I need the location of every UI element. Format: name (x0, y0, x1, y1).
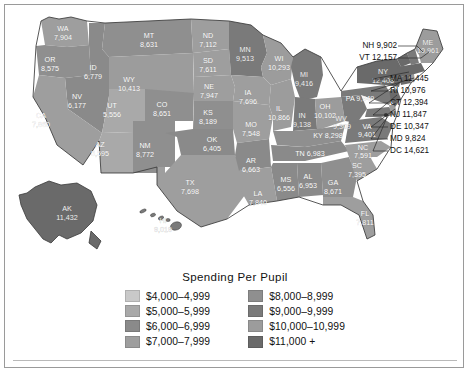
callout-DC: DC 14,621 (390, 146, 430, 155)
state-label-GA: GA (328, 178, 339, 187)
legend-swatch (125, 320, 140, 332)
legend-column-2: $8,000–8,999$9,000–9,999$10,000–10,999$1… (248, 290, 345, 348)
legend-item[interactable]: $5,000–5,999 (125, 305, 210, 317)
legend-item[interactable]: $11,000 + (248, 336, 345, 348)
map-legend: Spending Per Pupil $4,000–4,999$5,000–5,… (5, 267, 465, 368)
state-label-MT: MT (144, 31, 155, 40)
legend-label: $10,000–10,999 (269, 321, 345, 332)
callout-NH: NH 9,902 (362, 41, 397, 50)
state-value-CO: 8,651 (153, 109, 171, 118)
state-label-SD: SD (203, 56, 213, 65)
legend-title: Spending Per Pupil (5, 271, 465, 283)
legend-swatch (248, 320, 263, 332)
legend-item[interactable]: $10,000–10,999 (248, 320, 345, 332)
state-label-VAV: 9,401 (358, 130, 376, 139)
legend-swatch (125, 305, 140, 317)
state-label-MO: MO (245, 120, 257, 129)
state-label-NY: NY (378, 67, 388, 76)
state-value-WI: 10,293 (268, 63, 290, 72)
state-OK[interactable] (165, 129, 235, 155)
callouts-right: MA 11,445RI 10,976CT 12,394NJ 11,847DE 1… (390, 74, 430, 155)
state-label-CO: CO (157, 100, 168, 109)
state-value-KS: 8,189 (199, 117, 217, 126)
state-value-AL: 6,953 (299, 181, 317, 190)
state-label-OK: OK (207, 135, 218, 144)
state-value-WA: 7,904 (54, 33, 72, 42)
state-value-AZ: 5,595 (91, 149, 109, 158)
state-label-KY: KY 8,298 (313, 131, 342, 140)
legend-label: $9,000–9,999 (269, 306, 333, 317)
state-label-PA: PA 9,949 (346, 94, 375, 103)
state-value-OH: 10,102 (314, 111, 336, 120)
state-label-NCV: 7,591 (354, 151, 372, 160)
callout-DE: DE 10,347 (390, 122, 429, 131)
state-label-ND: ND (203, 31, 213, 40)
us-map-svg: WA7,904OR8,575ID6,779MT8,631WY10,413NV6,… (5, 5, 465, 267)
callout-CT: CT 12,394 (390, 98, 429, 107)
callout-MA: MA 11,445 (390, 74, 429, 83)
legend-label: $4,000–4,999 (146, 291, 210, 302)
state-label-NM: NM (139, 141, 150, 150)
state-label-MEV: 10,961 (417, 46, 439, 55)
state-value-OK: 6,405 (203, 144, 221, 153)
state-value-MS: 6,556 (277, 184, 295, 193)
legend-label: $11,000 + (269, 336, 315, 347)
state-label-WY: WY (123, 75, 135, 84)
state-label-HI: HI (159, 216, 166, 225)
state-value-ID: 6,779 (84, 72, 102, 81)
state-label-WVV: 9,309 (333, 122, 351, 131)
callout-RI: RI 10,976 (390, 86, 426, 95)
legend-label: $6,000–6,999 (146, 321, 210, 332)
state-label-FL: FL (361, 209, 369, 218)
state-value-TX: 7,698 (181, 187, 199, 196)
state-label-ID: ID (89, 63, 96, 72)
callouts-left: NH 9,902VT 12,157 (359, 41, 397, 62)
state-value-HI: 9,019 (154, 225, 172, 234)
state-label-TN: TN 6,983 (295, 149, 325, 158)
state-label-WI: WI (275, 54, 284, 63)
state-value-UT: 5,556 (103, 110, 121, 119)
state-label-TX: TX (185, 178, 194, 187)
state-label-IL: IL (276, 104, 282, 113)
state-label-NV: NV (72, 92, 82, 101)
state-value-SC: 7,395 (348, 170, 366, 179)
legend-item[interactable]: $7,000–7,999 (125, 336, 210, 348)
state-value-CA: 7,860 (32, 120, 50, 129)
legend-swatch (248, 290, 263, 302)
legend-item[interactable]: $4,000–4,999 (125, 290, 210, 302)
state-value-OR: 8,575 (41, 64, 59, 73)
state-label-NE: NE (204, 82, 214, 91)
state-label-AR: AR (246, 156, 256, 165)
state-label-OR: OR (45, 55, 56, 64)
legend-label: $8,000–8,999 (269, 291, 333, 302)
legend-label: $7,000–7,999 (146, 336, 210, 347)
legend-swatch (125, 336, 140, 348)
state-value-LA: 7,840 (249, 198, 267, 207)
state-value-SD: 7,611 (199, 65, 216, 74)
state-value-NE: 7,947 (200, 91, 218, 100)
state-label-AK: AK (62, 204, 72, 213)
state-value-MO: 7,548 (242, 129, 260, 138)
state-label-CA: CA (36, 111, 46, 120)
state-label-MN: MN (239, 45, 250, 54)
state-value-MN: 9,513 (236, 54, 254, 63)
state-label-UT: UT (107, 101, 117, 110)
legend-item[interactable]: $9,000–9,999 (248, 305, 345, 317)
state-value-GA: 8,671 (324, 187, 342, 196)
legend-item[interactable]: $8,000–8,999 (248, 290, 345, 302)
choropleth-map: WA7,904OR8,575ID6,779MT8,631WY10,413NV6,… (5, 5, 465, 267)
state-value-ND: 7,112 (199, 40, 216, 49)
legend-divider (13, 360, 457, 361)
legend-item[interactable]: $6,000–6,999 (125, 320, 210, 332)
state-value-FL: 7,811 (356, 218, 373, 227)
legend-swatch (125, 290, 140, 302)
callout-VT: VT 12,157 (359, 53, 397, 62)
legend-column-1: $4,000–4,999$5,000–5,999$6,000–6,999$7,0… (125, 290, 210, 348)
callout-MD: MD 9,824 (390, 134, 426, 143)
state-IL[interactable] (269, 79, 295, 131)
state-label-AZ: AZ (95, 140, 105, 149)
state-value-NV: 6,177 (68, 101, 86, 110)
legend-swatch (248, 336, 263, 348)
state-label-IA: IA (245, 88, 252, 97)
state-label-OH: OH (320, 102, 331, 111)
